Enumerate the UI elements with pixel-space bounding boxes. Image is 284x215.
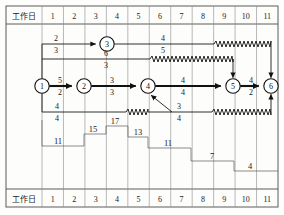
node-5: 5 [226,79,240,93]
step-value-7-5: 7 [210,151,214,161]
header-bottom-day-4: 4 [115,195,119,204]
dur-1-4-lower: 3 [104,61,108,70]
step-value-17-2: 17 [111,116,120,126]
header-bottom-day-8: 8 [201,195,205,204]
dur-4-5-upper: 4 [181,76,185,85]
node-6: 6 [264,79,278,93]
header-top-day-2: 2 [72,12,76,21]
node-label-6: 6 [269,82,273,91]
header-bottom-day-7: 7 [179,195,183,204]
node-2: 2 [77,79,91,93]
dur-1-3-upper: 2 [54,34,58,43]
node-label-3: 3 [105,40,109,49]
header-top-day-9: 9 [222,12,226,21]
header-top-day-3: 3 [94,12,98,21]
dur-2-4-lower: 3 [110,88,114,97]
header-bottom-day-1: 1 [51,195,55,204]
dur-1-6-upper: 4 [55,102,59,111]
header-bottom-workday-label: 工作日 [12,194,36,204]
node-1: 1 [35,79,49,93]
header-bottom-day-2: 2 [72,195,76,204]
header-bottom-day-5: 5 [137,195,141,204]
dur-1-6-lower: 4 [55,114,59,123]
header-bottom-day-6: 6 [158,195,162,204]
dur-1-2-lower: 2 [58,88,62,97]
dur-3-6-lower: 5 [161,46,165,55]
header-top-day-5: 5 [137,12,141,21]
dur-5-6-upper: 4 [249,76,253,85]
dur-4-6-upper: 3 [177,102,181,111]
dur-2-4-upper: 3 [110,76,114,85]
dur-4-6-lower: 4 [177,114,181,123]
dur-1-3-lower: 3 [54,46,58,55]
node-label-1: 1 [40,82,44,91]
step-value-11-0: 11 [54,136,62,146]
node-4: 4 [141,79,155,93]
header-top-day-10: 10 [242,12,250,21]
step-value-15-1: 15 [89,124,98,134]
node-label-2: 2 [82,82,86,91]
header-top-day-6: 6 [158,12,162,21]
node-label-4: 4 [146,82,150,91]
network-diagram-page: 123456 工作日工作日112233445566778899101011111… [0,0,284,215]
dur-1-4-upper: 6 [104,49,108,58]
step-value-11-4: 11 [164,138,172,148]
node-label-5: 5 [231,82,235,91]
header-bottom-day-3: 3 [94,195,98,204]
diagram-canvas: 123456 工作日工作日112233445566778899101011111… [0,0,284,215]
step-value-13-3: 13 [134,127,143,137]
header-bottom-day-9: 9 [222,195,226,204]
header-bottom-day-11: 11 [263,195,271,204]
header-top-day-7: 7 [179,12,183,21]
dur-4-5-lower: 4 [181,88,185,97]
dur-3-6-upper: 4 [161,34,165,43]
header-top-workday-label: 工作日 [12,11,36,21]
header-top-day-4: 4 [115,12,119,21]
header-top-day-8: 8 [201,12,205,21]
dur-5-6-lower: 2 [249,88,253,97]
header-top-day-11: 11 [263,12,271,21]
dur-1-2-upper: 5 [58,76,62,85]
header-top-day-1: 1 [51,12,55,21]
canvas-background [0,0,284,215]
header-bottom-day-10: 10 [242,195,250,204]
